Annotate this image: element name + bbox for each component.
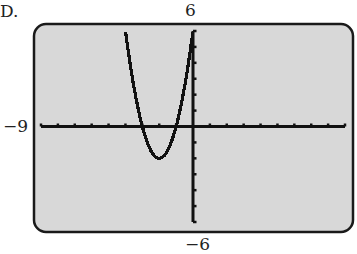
calculator-graph-screen: [0, 0, 357, 243]
